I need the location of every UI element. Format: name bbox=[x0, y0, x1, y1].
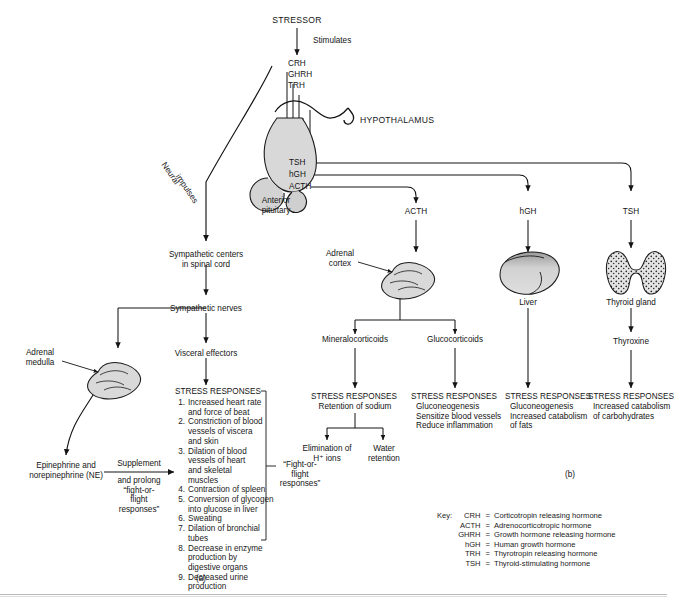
stress-response-text: Increased heart rate and force of beat bbox=[188, 398, 267, 417]
key-abbr: ACTH bbox=[458, 521, 485, 531]
heading-stress-responses-gluco: STRESS RESPONSES bbox=[411, 392, 497, 402]
stress-response-number: 3. bbox=[175, 447, 188, 486]
stress-response-number: 8. bbox=[175, 544, 188, 573]
stress-response-line: of carbohydrates bbox=[593, 412, 670, 422]
text-retention-of-sodium: Retention of sodium bbox=[319, 402, 392, 412]
label-acth-branch: ACTH bbox=[405, 207, 427, 217]
stress-response-number: 6. bbox=[175, 514, 188, 524]
label-hgh-branch: hGH bbox=[520, 207, 537, 217]
stress-response-number: 4. bbox=[175, 485, 188, 495]
heading-stress-responses-left: STRESS RESPONSES bbox=[175, 387, 261, 397]
stress-response-item: 2.Constriction of blood vessels of visce… bbox=[175, 417, 267, 446]
stress-response-line: Gluconeogenesis bbox=[416, 402, 501, 412]
stress-response-item: 3.Dilation of blood vessels of heart and… bbox=[175, 447, 267, 486]
stress-response-item: 6.Sweating bbox=[175, 514, 267, 524]
organ-adrenal-cortex bbox=[382, 263, 435, 299]
label-tsh-branch: TSH bbox=[623, 207, 639, 217]
stress-response-number: 1. bbox=[175, 398, 188, 417]
stress-response-text: Dilation of bronchial tubes bbox=[188, 524, 267, 543]
key-abbr: GHRH bbox=[458, 530, 485, 540]
key-description: Adrenocorticotropic hormone bbox=[494, 521, 618, 531]
label-trh: TRH bbox=[288, 81, 305, 91]
stress-response-line: of fats bbox=[510, 421, 587, 431]
organ-liver bbox=[500, 252, 559, 294]
text-liver-lines: GluconeogenesisIncreased catabolismof fa… bbox=[510, 402, 587, 431]
text-elimination-h-ions: Elimination of H⁺ ions bbox=[302, 444, 351, 463]
stress-response-text: Decrease in enzyme production by digesti… bbox=[188, 544, 267, 573]
label-supplement: Supplement bbox=[117, 459, 161, 469]
key-title bbox=[437, 521, 458, 531]
stress-response-number: 9. bbox=[175, 573, 188, 592]
label-visceral-effectors: Visceral effectors bbox=[175, 349, 238, 359]
label-sympathetic-centers: Sympathetic centers in spinal cord bbox=[169, 250, 243, 269]
footer-rule-secondary bbox=[0, 596, 667, 597]
key-title bbox=[437, 540, 458, 550]
stress-response-line: Sensitize blood vessels bbox=[416, 412, 501, 422]
key-abbr: TSH bbox=[458, 559, 485, 569]
stress-response-text: Conversion of glycogen into glucose in l… bbox=[188, 495, 274, 514]
label-ghrh: GHRH bbox=[288, 70, 312, 80]
text-thyroid-lines: Increased catabolismof carbohydrates bbox=[593, 402, 670, 421]
text-gluco-lines: GluconeogenesisSensitize blood vesselsRe… bbox=[416, 402, 501, 431]
key-description: Corticotropin releasing hormone bbox=[494, 511, 618, 521]
key-row: GHRH=Growth hormone releasing hormone bbox=[437, 530, 618, 540]
stress-response-item: 4.Contraction of spleen bbox=[175, 485, 267, 495]
key-equals: = bbox=[486, 511, 494, 521]
path-hgh-systemic bbox=[311, 175, 528, 191]
panel-label-a: (a) bbox=[196, 574, 206, 584]
label-acth-pituitary: ACTH bbox=[289, 182, 311, 192]
label-stimulates: Stimulates bbox=[313, 36, 351, 46]
stress-response-line: Increased catabolism bbox=[510, 412, 587, 422]
label-hypothalamus: HYPOTHALAMUS bbox=[360, 116, 434, 126]
label-liver: Liver bbox=[519, 298, 537, 308]
path-acth-systemic bbox=[311, 187, 416, 203]
label-fight-or-flight: “Fight-or- flight responses” bbox=[280, 460, 321, 489]
label-thyroxine: Thyroxine bbox=[613, 337, 649, 347]
label-tsh-pituitary: TSH bbox=[289, 158, 305, 168]
key-description: Human growth hormone bbox=[494, 540, 618, 550]
key-equals: = bbox=[486, 559, 494, 569]
label-stressor: STRESSOR bbox=[272, 16, 321, 26]
label-adrenal-medulla: Adrenal medulla bbox=[26, 348, 55, 367]
label-mineralocorticoids: Mineralocorticoids bbox=[322, 335, 388, 345]
key-equals: = bbox=[486, 530, 494, 540]
label-crh: CRH bbox=[288, 59, 306, 69]
key-row: ACTH=Adrenocorticotropic hormone bbox=[437, 521, 618, 531]
key-abbr: TRH bbox=[458, 549, 485, 559]
key-title bbox=[437, 559, 458, 569]
key-row: hGH=Human growth hormone bbox=[437, 540, 618, 550]
stress-response-number: 7. bbox=[175, 524, 188, 543]
heading-stress-responses-mineralo: STRESS RESPONSES bbox=[311, 392, 397, 402]
key-row: Key:CRH=Corticotropin releasing hormone bbox=[437, 511, 618, 521]
key-equals: = bbox=[486, 521, 494, 531]
key-description: Thyrotropin releasing hormone bbox=[494, 549, 618, 559]
key-equals: = bbox=[486, 540, 494, 550]
label-hgh-pituitary: hGH bbox=[289, 170, 306, 180]
footer-rule bbox=[0, 594, 667, 595]
stress-response-text: Dilation of blood vessels of heart and s… bbox=[188, 447, 267, 486]
label-epinephrine-norepinephrine: Epinephrine and norepinephrine (NE) bbox=[29, 461, 103, 480]
organ-thyroid-gland bbox=[606, 252, 665, 294]
stress-response-number: 5. bbox=[175, 495, 188, 514]
label-glucocorticoids: Glucocorticoids bbox=[427, 335, 483, 345]
stress-response-text: Constriction of blood vessels of viscera… bbox=[188, 417, 267, 446]
label-adrenal-cortex: Adrenal cortex bbox=[326, 249, 354, 268]
organ-adrenal-medulla bbox=[88, 363, 141, 399]
key-row: TRH=Thyrotropin releasing hormone bbox=[437, 549, 618, 559]
key-abbr: hGH bbox=[458, 540, 485, 550]
stress-response-line: Increased catabolism bbox=[593, 402, 670, 412]
key-title: Key: bbox=[437, 511, 458, 521]
label-sympathetic-nerves: Sympathetic nerves bbox=[170, 304, 242, 314]
stress-response-text: Contraction of spleen bbox=[188, 485, 267, 495]
stress-response-item: 1.Increased heart rate and force of beat bbox=[175, 398, 267, 417]
heading-stress-responses-liver: STRESS RESPONSES bbox=[505, 392, 591, 402]
label-thyroid-gland: Thyroid gland bbox=[606, 298, 656, 308]
key-legend: Key:CRH=Corticotropin releasing hormoneA… bbox=[437, 511, 618, 569]
stress-response-line: Gluconeogenesis bbox=[510, 402, 587, 412]
stress-response-item: 9.Decreased urine production bbox=[175, 573, 267, 592]
label-anterior-pituitary: Anterior pituitary bbox=[262, 196, 291, 215]
key-description: Growth hormone releasing hormone bbox=[494, 530, 618, 540]
panel-label-b: (b) bbox=[565, 470, 575, 480]
key-title bbox=[437, 549, 458, 559]
